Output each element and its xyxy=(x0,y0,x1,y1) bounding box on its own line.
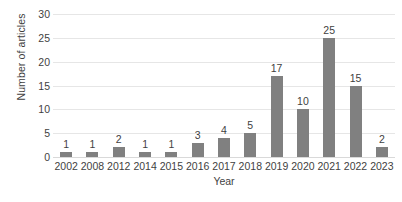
bar xyxy=(139,152,151,157)
bar xyxy=(165,152,177,157)
y-axis-tick-label: 20 xyxy=(26,57,50,67)
bar xyxy=(113,147,125,157)
bar-value-label: 2 xyxy=(116,134,122,145)
x-axis-tick-label: 2019 xyxy=(263,160,289,173)
x-axis-tick-label: 2020 xyxy=(290,160,316,173)
y-axis-tick-labels: 051015202530 xyxy=(26,0,50,202)
bar-value-label: 25 xyxy=(323,25,335,36)
y-axis-tick-label: 5 xyxy=(26,128,50,138)
bar-chart: Number of articles 051015202530 11211345… xyxy=(0,0,402,202)
bar-group: 2 xyxy=(369,14,395,157)
x-axis-tick-label: 2016 xyxy=(185,160,211,173)
x-axis-tick-label: 2014 xyxy=(132,160,158,173)
bar-value-label: 10 xyxy=(297,96,309,107)
bar-value-label: 15 xyxy=(350,73,362,84)
bar xyxy=(376,147,388,157)
bar-group: 17 xyxy=(263,14,289,157)
bar-group: 1 xyxy=(132,14,158,157)
x-axis-tick-labels: 2002200820122014201520162017201820192020… xyxy=(53,160,395,174)
bar-value-label: 1 xyxy=(168,139,174,150)
bar-group: 2 xyxy=(106,14,132,157)
bar-group: 1 xyxy=(158,14,184,157)
bar-group: 5 xyxy=(237,14,263,157)
bar-value-label: 5 xyxy=(247,120,253,131)
bar-series: 11211345171025152 xyxy=(53,14,395,157)
y-axis-tick-label: 15 xyxy=(26,81,50,91)
x-axis-baseline xyxy=(53,157,395,158)
bar xyxy=(192,143,204,157)
x-axis-title: Year xyxy=(53,175,395,188)
bar xyxy=(323,38,335,157)
bar-group: 10 xyxy=(290,14,316,157)
bar-group: 1 xyxy=(79,14,105,157)
bar-value-label: 1 xyxy=(142,139,148,150)
bar-value-label: 1 xyxy=(90,139,96,150)
bar-group: 25 xyxy=(316,14,342,157)
y-axis-tick-label: 0 xyxy=(26,152,50,162)
bar-group: 4 xyxy=(211,14,237,157)
x-axis-tick-label: 2012 xyxy=(106,160,132,173)
y-axis-tick-label: 10 xyxy=(26,104,50,114)
bar xyxy=(244,133,256,157)
y-axis-tick-label: 25 xyxy=(26,33,50,43)
bar xyxy=(271,76,283,157)
x-axis-tick-label: 2017 xyxy=(211,160,237,173)
x-axis-tick-label: 2018 xyxy=(237,160,263,173)
bar xyxy=(218,138,230,157)
bar-value-label: 4 xyxy=(221,125,227,136)
x-axis-tick-label: 2015 xyxy=(158,160,184,173)
bar-value-label: 1 xyxy=(63,139,69,150)
bar xyxy=(86,152,98,157)
x-axis-tick-label: 2023 xyxy=(369,160,395,173)
bar xyxy=(350,86,362,158)
x-axis-tick-label: 2021 xyxy=(316,160,342,173)
bar xyxy=(297,109,309,157)
bar-group: 1 xyxy=(53,14,79,157)
bar xyxy=(60,152,72,157)
x-axis-tick-label: 2002 xyxy=(53,160,79,173)
x-axis-tick-label: 2022 xyxy=(342,160,368,173)
bar-value-label: 3 xyxy=(195,130,201,141)
bar-value-label: 2 xyxy=(379,134,385,145)
y-axis-tick-label: 30 xyxy=(26,9,50,19)
x-axis-tick-label: 2008 xyxy=(79,160,105,173)
bar-value-label: 17 xyxy=(271,63,283,74)
bar-group: 15 xyxy=(342,14,368,157)
bar-group: 3 xyxy=(185,14,211,157)
